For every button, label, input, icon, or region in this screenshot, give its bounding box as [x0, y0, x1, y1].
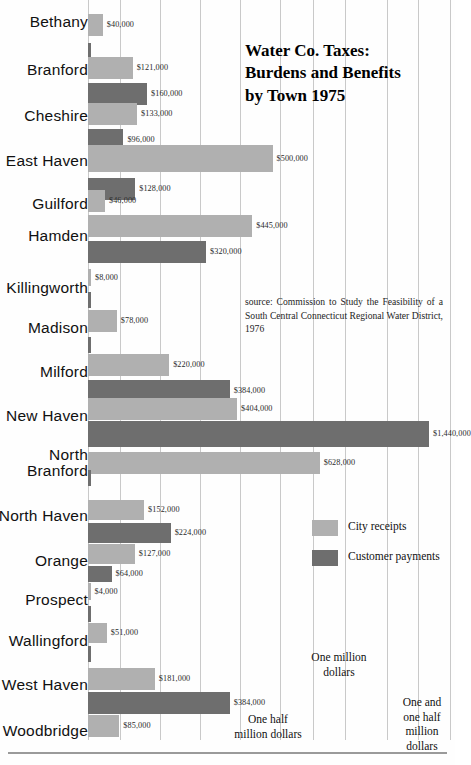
bar-city-receipts-new-haven [88, 398, 237, 420]
gridline-8 [387, 0, 388, 740]
bar-customer-payments-north-branford [88, 470, 91, 486]
legend-item-customer-payments: Customer payments [312, 548, 457, 578]
value-label-city-receipts-branford: $121,000 [137, 63, 169, 72]
gridline-5 [280, 0, 281, 740]
gridline-3 [200, 0, 201, 740]
value-label-customer-payments-west-haven: $384,000 [234, 698, 266, 707]
value-label-city-receipts-milford: $220,000 [173, 360, 205, 369]
value-label-city-receipts-bethany: $40,000 [107, 20, 134, 29]
value-label-city-receipts-woodbridge: $85,000 [123, 721, 150, 730]
axis-note-2: One andone halfmilliondollars [392, 695, 452, 754]
chart-title-line-1: Water Co. Taxes: [245, 40, 445, 62]
legend-swatch-icon-customer-payments [312, 550, 338, 566]
bar-customer-payments-hamden [88, 241, 206, 263]
bar-city-receipts-wallingford [88, 623, 107, 643]
axis-note-line: one half [392, 710, 452, 725]
legend-label-city-receipts: City receipts [348, 520, 406, 532]
value-label-city-receipts-north-branford: $628,000 [324, 458, 356, 467]
bar-city-receipts-north-haven [88, 500, 144, 520]
bar-customer-payments-wallingford [88, 646, 91, 662]
value-label-city-receipts-west-haven: $181,000 [159, 674, 191, 683]
category-label-north-haven: North Haven [0, 508, 88, 524]
value-label-customer-payments-milford: $384,000 [234, 386, 266, 395]
chart-title-line-2: Burdens and Benefits [245, 62, 445, 84]
category-label-bethany: Bethany [30, 14, 88, 30]
bar-city-receipts-hamden [88, 215, 252, 237]
value-label-city-receipts-prospect: $4,000 [95, 587, 118, 596]
value-label-customer-payments-orange: $64,000 [116, 569, 143, 578]
value-label-city-receipts-cheshire: $133,000 [141, 109, 173, 118]
bar-customer-payments-killingworth [88, 292, 91, 308]
gridline-10 [450, 0, 451, 740]
category-label-killingworth: Killingworth [6, 280, 88, 296]
category-label-branford: Branford [27, 62, 88, 78]
bar-city-receipts-prospect [88, 583, 91, 600]
axis-note-1: One milliondollars [300, 650, 378, 679]
category-label-madison: Madison [28, 320, 88, 336]
category-label-hamden: Hamden [28, 228, 88, 244]
category-label-new-haven: New Haven [6, 408, 88, 424]
value-label-city-receipts-killingworth: $8,000 [95, 273, 118, 282]
value-label-city-receipts-north-haven: $152,000 [148, 505, 180, 514]
bar-customer-payments-orange [88, 566, 112, 582]
gridline-7 [345, 0, 346, 740]
gridline-9 [418, 0, 419, 740]
source-note: source: Commission to Study the Feasibil… [245, 295, 443, 336]
value-label-customer-payments-east-haven: $128,000 [139, 184, 171, 193]
legend-swatch-icon-city-receipts [312, 520, 338, 536]
legend-label-customer-payments: Customer payments [348, 550, 440, 562]
bar-city-receipts-orange [88, 544, 135, 564]
bar-customer-payments-north-haven [88, 523, 171, 543]
baseline-rule [8, 752, 447, 754]
axis-note-line: One million [300, 650, 378, 665]
axis-note-line: dollars [300, 665, 378, 680]
bar-customer-payments-west-haven [88, 692, 230, 714]
axis-note-line: One half [228, 712, 308, 727]
category-label-line: Branford [27, 463, 88, 479]
bar-city-receipts-killingworth [88, 269, 91, 286]
axis-note-line: million [392, 724, 452, 739]
bar-city-receipts-cheshire [88, 103, 137, 125]
bar-customer-payments-madison [88, 337, 91, 353]
chart-title: Water Co. Taxes: Burdens and Benefits by… [245, 40, 445, 107]
plot-area: Bethany$40,000Branford$121,000$160,000Ch… [0, 0, 455, 740]
value-label-customer-payments-branford: $160,000 [151, 89, 183, 98]
bar-city-receipts-east-haven [88, 145, 273, 172]
category-label-orange: Orange [35, 553, 88, 569]
category-label-line: North [27, 447, 88, 463]
value-label-customer-payments-cheshire: $96,000 [127, 135, 154, 144]
bar-city-receipts-guilford [88, 190, 105, 212]
bar-city-receipts-west-haven [88, 668, 155, 690]
value-label-city-receipts-new-haven: $404,000 [241, 404, 273, 413]
bar-customer-payments-branford [88, 83, 147, 105]
bar-city-receipts-north-branford [88, 452, 320, 474]
category-label-north-branford: NorthBranford [27, 447, 88, 479]
bar-customer-payments-prospect [88, 606, 91, 622]
axis-note-line: One and [392, 695, 452, 710]
category-label-guilford: Guilford [32, 196, 88, 212]
value-label-city-receipts-orange: $127,000 [139, 549, 171, 558]
category-label-prospect: Prospect [25, 592, 88, 608]
value-label-city-receipts-hamden: $445,000 [256, 221, 288, 230]
category-label-wallingford: Wallingford [9, 633, 88, 649]
value-label-city-receipts-madison: $78,000 [121, 316, 148, 325]
legend-item-city-receipts: City receipts [312, 518, 457, 548]
category-label-cheshire: Cheshire [24, 108, 88, 124]
value-label-customer-payments-north-haven: $224,000 [175, 528, 207, 537]
bar-city-receipts-bethany [88, 14, 103, 36]
category-label-woodbridge: Woodbridge [3, 723, 88, 739]
gridline-4 [240, 0, 241, 740]
value-label-city-receipts-east-haven: $500,000 [277, 154, 309, 163]
category-label-milford: Milford [40, 364, 88, 380]
value-label-customer-payments-new-haven: $1,440,000 [433, 429, 471, 438]
bar-city-receipts-branford [88, 57, 133, 79]
bar-city-receipts-madison [88, 310, 117, 332]
bar-customer-payments-new-haven [88, 421, 429, 447]
chart-legend: City receipts Customer payments [312, 518, 457, 578]
chart-title-line-3: by Town 1975 [245, 85, 445, 107]
category-label-east-haven: East Haven [6, 153, 88, 169]
bar-city-receipts-woodbridge [88, 715, 119, 737]
gridline-6 [313, 0, 314, 740]
axis-note-line: million dollars [228, 727, 308, 742]
